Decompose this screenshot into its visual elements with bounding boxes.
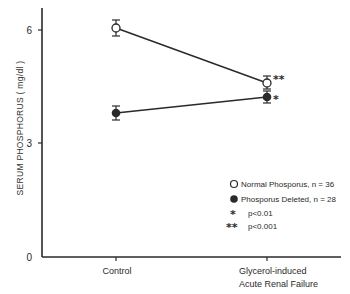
legend-open-circle-icon <box>231 181 238 188</box>
normal-series-line <box>116 28 267 83</box>
legend-deleted-label: Phosporus Deleted, n = 28 <box>241 195 337 204</box>
legend-double-star-icon: ** <box>226 221 238 234</box>
normal-control-open-circle-marker <box>112 24 120 32</box>
legend-sig2-label: p<0.001 <box>248 222 278 231</box>
legend-filled-circle-icon <box>230 195 238 203</box>
deleted-control-filled-circle-marker <box>112 109 121 118</box>
deleted-significance-star: * <box>273 93 279 106</box>
legend-sig1-label: p<0.01 <box>248 209 273 218</box>
legend-single-star-icon: * <box>230 208 236 221</box>
legend: Normal Phosporus, n = 36 Phosporus Delet… <box>226 180 337 234</box>
normal-significance-stars: ** <box>273 73 285 86</box>
normal-glycerol-open-circle-marker <box>263 79 271 87</box>
y-tick-label-0: 0 <box>26 252 32 263</box>
x-category-glycerol-line1: Glycerol-induced <box>239 266 307 276</box>
deleted-series-line <box>116 97 267 113</box>
x-category-glycerol-line2: Acute Renal Failure <box>239 279 318 289</box>
y-tick-label-3: 3 <box>26 138 32 149</box>
y-axis-label: SERUM PHOSPHORUS ( mg/dl ) <box>15 61 25 196</box>
deleted-glycerol-filled-circle-marker <box>263 93 272 102</box>
serum-phosphorus-chart: 6 3 0 SERUM PHOSPHORUS ( mg/dl ) Control… <box>0 0 350 294</box>
x-category-control: Control <box>102 266 131 276</box>
legend-normal-label: Normal Phosporus, n = 36 <box>241 180 335 189</box>
y-tick-label-6: 6 <box>26 25 32 36</box>
